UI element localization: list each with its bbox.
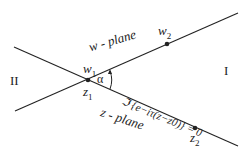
- w2-label: w2: [158, 24, 171, 41]
- complex-plane-diagram: II I w - plane z - plane w1 w2 z1 z2 α ℑ…: [0, 0, 247, 153]
- region-i-label: I: [224, 64, 228, 77]
- w1-label: w1: [83, 62, 96, 79]
- z1-label: z1: [83, 85, 93, 102]
- point-w2: [165, 42, 170, 47]
- diagram-lines: [0, 0, 247, 153]
- region-ii-label: II: [10, 74, 19, 87]
- alpha-label: α: [97, 73, 103, 85]
